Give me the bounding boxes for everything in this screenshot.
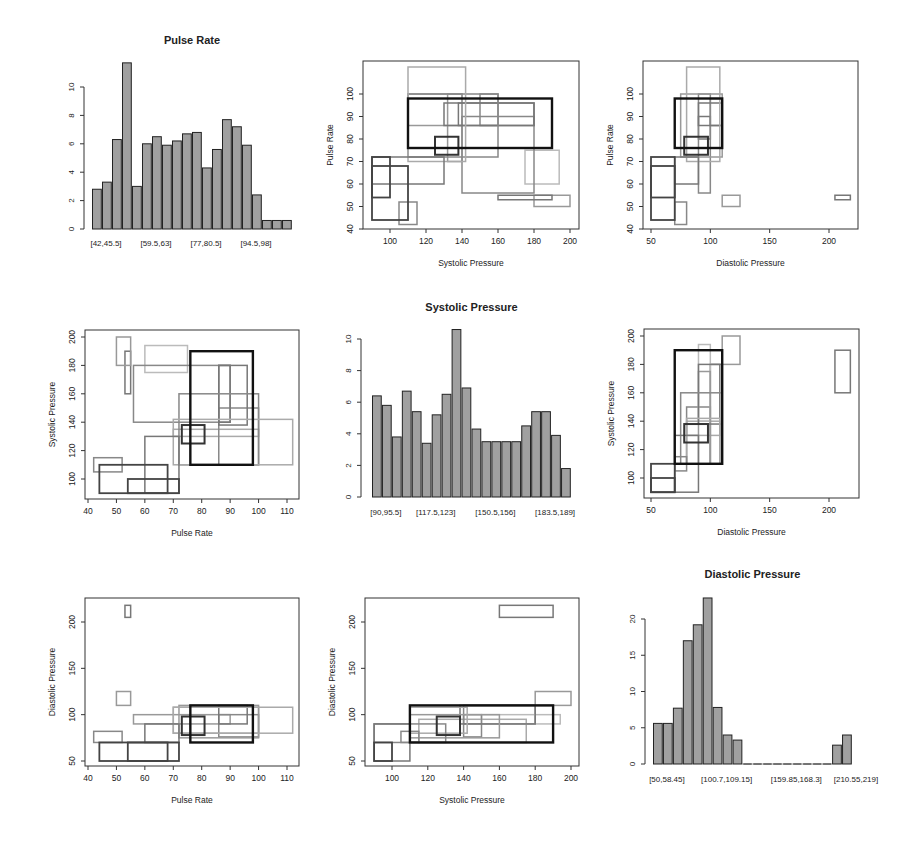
histogram-bar — [392, 437, 401, 497]
interval-rect — [675, 202, 687, 225]
interval-rect — [125, 351, 131, 394]
histogram-bar — [422, 443, 431, 497]
x-tick-label: 110 — [280, 773, 294, 783]
y-tick-label: 0 — [344, 494, 353, 499]
interval-rect — [173, 707, 258, 733]
y-tick-label: 70 — [345, 157, 355, 167]
x-tick-label: 90 — [225, 773, 235, 783]
y-tick-label: 40 — [625, 224, 635, 234]
y-tick-label: 160 — [67, 386, 77, 400]
interval-rectangles — [372, 67, 570, 225]
y-tick-label: 8 — [344, 368, 353, 373]
plot-frame — [644, 329, 859, 498]
x-tick-label: 100 — [251, 773, 265, 783]
x-tick-label: 40 — [83, 773, 93, 783]
interval-rect — [710, 364, 719, 463]
histogram-bar — [663, 723, 672, 764]
y-tick-label: 60 — [625, 179, 635, 189]
x-axis-label: Pulse Rate — [171, 528, 213, 538]
y-tick-label: 6 — [344, 399, 353, 404]
interval-rect — [128, 479, 179, 493]
y-tick-label: 90 — [625, 112, 635, 122]
panel-1-1-histogram: Pulse Rate0246810[42,45.5][59.5,63][77,8… — [67, 34, 291, 248]
x-tick-label: 90 — [225, 506, 235, 516]
x-tick-label: [210.55,219] — [834, 775, 878, 784]
histogram-bar — [713, 707, 722, 764]
x-axis-label: Diastolic Pressure — [716, 258, 785, 268]
y-tick-label: 40 — [345, 224, 355, 234]
x-tick-label: 50 — [112, 773, 122, 783]
interval-rect — [698, 117, 710, 140]
interval-rect — [448, 94, 462, 162]
interval-rect — [94, 731, 122, 742]
interval-rectangles — [651, 336, 850, 492]
interval-rect — [835, 350, 850, 393]
interval-rect — [651, 478, 675, 492]
histogram-bar — [492, 442, 501, 497]
histogram-bar — [522, 426, 531, 497]
histogram-bar — [462, 388, 471, 497]
x-tick-label: 50 — [646, 236, 656, 246]
panel-2-3-interval-scatter: 50100150200100120140160180200Diastolic P… — [606, 329, 859, 537]
y-tick-label: 200 — [67, 330, 77, 344]
histogram-bar — [223, 120, 232, 229]
histogram-bar — [562, 469, 571, 497]
interval-rect — [651, 166, 675, 220]
chart-title: Diastolic Pressure — [705, 568, 801, 580]
y-tick-label: 20 — [628, 614, 637, 623]
y-axis-label: Systolic Pressure — [606, 380, 616, 446]
histogram-bar — [93, 189, 102, 229]
histogram-bar — [233, 127, 242, 229]
x-tick-label: [90,95.5] — [370, 508, 401, 517]
x-tick-label: 60 — [140, 773, 150, 783]
y-tick-label: 6 — [67, 141, 76, 146]
y-tick-label: 200 — [347, 615, 357, 629]
x-tick-label: [59.5,63] — [140, 239, 171, 248]
histogram-bar — [113, 140, 122, 229]
interval-rect — [145, 346, 188, 373]
chart-title: Systolic Pressure — [425, 301, 517, 313]
x-tick-label: 50 — [646, 505, 656, 515]
histogram-bar — [193, 132, 202, 229]
y-axis-label: Pulse Rate — [605, 124, 615, 166]
y-tick-label: 90 — [345, 112, 355, 122]
histogram-bar — [373, 396, 382, 497]
y-tick-label: 180 — [67, 358, 77, 372]
interval-rect — [182, 717, 205, 736]
panel-2-2-histogram: Systolic Pressure0246810[90,95.5][117.5,… — [344, 301, 575, 517]
histogram-bar — [432, 415, 441, 497]
y-tick-label: 4 — [344, 431, 353, 436]
interval-rect — [458, 103, 534, 126]
x-tick-label: 180 — [528, 773, 542, 783]
scatterplot-matrix: Pulse Rate0246810[42,45.5][59.5,63][77,8… — [0, 0, 911, 847]
x-tick-label: [42,45.5] — [90, 239, 121, 248]
y-tick-label: 150 — [347, 661, 357, 675]
y-axis-label: Pulse Rate — [325, 124, 335, 166]
x-tick-label: 180 — [527, 236, 541, 246]
histogram-bar — [452, 330, 461, 497]
y-tick-label: 60 — [345, 179, 355, 189]
histogram-bar — [123, 63, 132, 229]
x-tick-label: 160 — [491, 236, 505, 246]
histogram-bar — [723, 735, 732, 764]
y-tick-label: 10 — [628, 687, 637, 696]
x-axis-label: Systolic Pressure — [438, 258, 504, 268]
panel-1-3-interval-scatter: 50100150200405060708090100Diastolic Pres… — [605, 61, 858, 268]
x-tick-label: 60 — [140, 506, 150, 516]
x-tick-label: 100 — [703, 505, 717, 515]
histogram-bar — [263, 220, 272, 229]
interval-rect — [684, 424, 708, 442]
x-tick-label: [77,80.5] — [190, 239, 221, 248]
y-tick-label: 2 — [67, 198, 76, 203]
panel-1-2-interval-scatter: 100120140160180200405060708090100Systoli… — [325, 61, 579, 268]
panel-3-1-interval-scatter: 40506070809010011050100150200Pulse RateD… — [47, 598, 299, 805]
histogram-bar — [183, 134, 192, 229]
interval-rect — [722, 195, 740, 206]
interval-rect — [219, 365, 247, 425]
x-tick-label: 70 — [169, 773, 179, 783]
y-tick-label: 50 — [67, 756, 77, 766]
y-tick-label: 100 — [347, 707, 357, 721]
y-tick-label: 4 — [67, 169, 76, 174]
x-tick-label: [100.7,109.15] — [701, 775, 752, 784]
x-tick-label: 110 — [280, 506, 294, 516]
